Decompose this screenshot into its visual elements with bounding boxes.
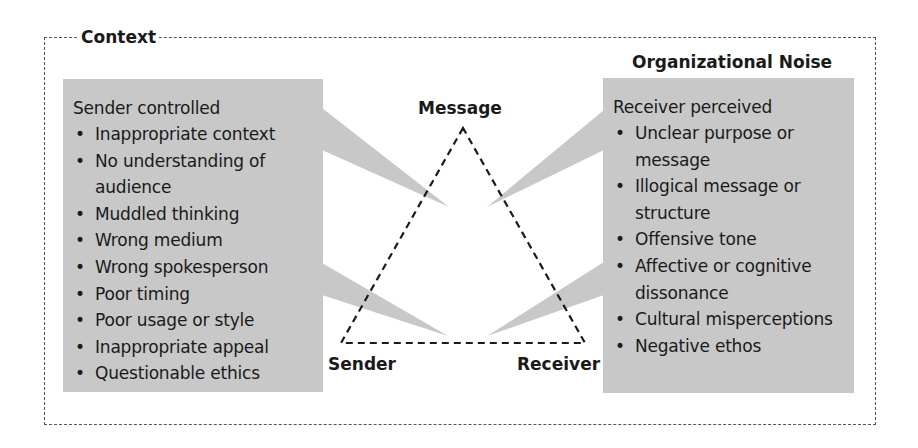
communication-triangle [0, 0, 918, 448]
message-label: Message [418, 98, 502, 118]
receiver-label: Receiver [517, 354, 600, 374]
sender-label: Sender [328, 354, 396, 374]
